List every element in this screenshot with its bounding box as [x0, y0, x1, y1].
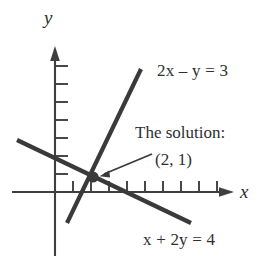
annotation-arrowhead: [100, 171, 111, 178]
x-axis-arrowhead: [219, 187, 234, 197]
solution-point-label: (2, 1): [155, 151, 192, 168]
intersection-point-marker: [87, 171, 98, 182]
x-axis-ticks: [73, 181, 217, 192]
line-2x-minus-y-equals-3: [67, 69, 141, 223]
graph-figure: y x 2x – y = 3 x + 2y = 4 The solution: …: [0, 0, 274, 271]
equation-label-bottom: x + 2y = 4: [143, 231, 215, 248]
y-axis-arrowhead: [50, 46, 60, 61]
equation-label-top: 2x – y = 3: [157, 62, 228, 79]
solution-caption: The solution:: [135, 124, 225, 141]
x-axis-label: x: [240, 182, 248, 201]
y-axis: [50, 46, 60, 256]
annotation-arrow-shaft: [104, 154, 152, 174]
solution-annotation-arrow: [100, 154, 153, 177]
y-axis-label: y: [44, 8, 52, 27]
